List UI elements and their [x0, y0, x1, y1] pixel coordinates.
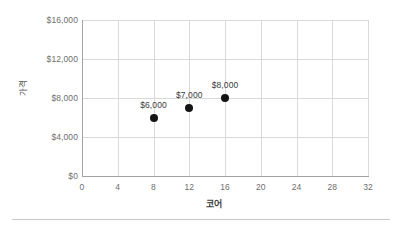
data-point-label: $6,000 [132, 100, 176, 110]
y-axis-tick-label: $4,000 [51, 132, 78, 142]
gridline-vertical [368, 20, 369, 176]
data-point-marker [221, 94, 229, 102]
gridline-vertical [297, 20, 298, 176]
y-axis-tick-labels: $0$4,000$8,000$12,000$16,000 [0, 0, 78, 230]
x-axis-tick-label: 32 [355, 182, 381, 192]
gridline-vertical [154, 20, 155, 176]
x-axis-tick-label: 12 [176, 182, 202, 192]
gridline-vertical [118, 20, 119, 176]
bottom-divider [12, 219, 390, 220]
scatter-chart-figure: $0$4,000$8,000$12,000$16,000 04812162024… [0, 0, 397, 230]
data-point-label: $7,000 [167, 90, 211, 100]
y-axis-line [82, 20, 83, 177]
y-axis-tick-label: $12,000 [47, 54, 78, 64]
gridline-vertical [332, 20, 333, 176]
y-axis-tick-label: $16,000 [47, 15, 78, 25]
x-axis-tick-label: 0 [69, 182, 95, 192]
x-axis-tick-label: 16 [212, 182, 238, 192]
x-axis-tick-label: 8 [141, 182, 167, 192]
x-axis-line [82, 176, 369, 177]
x-axis-tick-label: 24 [284, 182, 310, 192]
data-point-marker [185, 104, 193, 112]
x-axis-tick-label: 20 [248, 182, 274, 192]
y-axis-title: 가격 [16, 80, 28, 96]
x-axis-tick-label: 28 [319, 182, 345, 192]
data-point-label: $8,000 [203, 80, 247, 90]
gridline-vertical [261, 20, 262, 176]
y-axis-tick-label: $0 [68, 171, 78, 181]
x-axis-title: 코어 [0, 197, 397, 210]
x-axis-tick-label: 4 [105, 182, 131, 192]
y-axis-tick-label: $8,000 [51, 93, 78, 103]
data-point-marker [150, 114, 158, 122]
